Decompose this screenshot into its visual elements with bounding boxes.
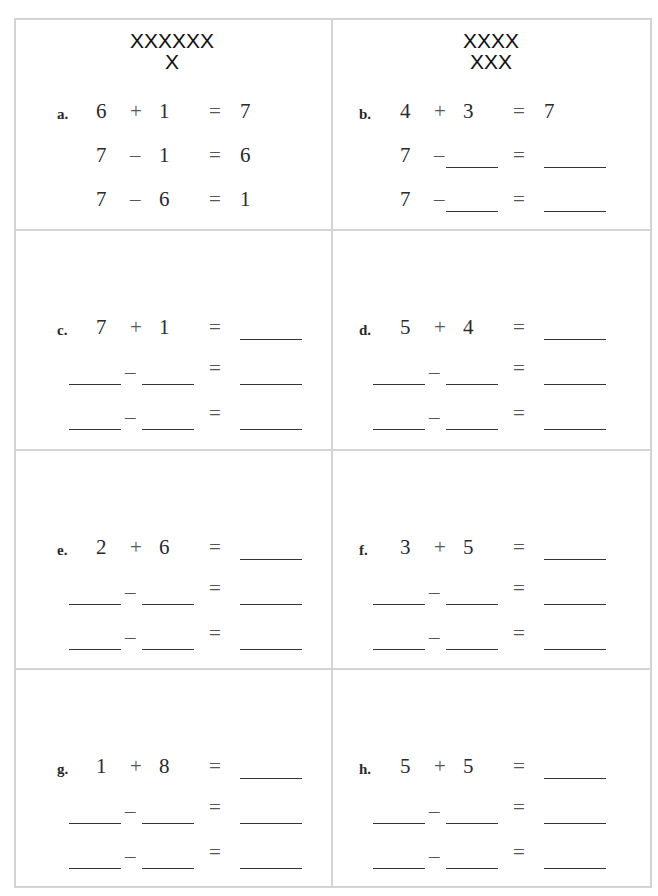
first-number: 7 [96,143,107,168]
equals-sign: = [209,187,221,212]
equals-sign: = [209,401,221,426]
second-number-blank[interactable] [446,384,498,385]
subtraction-sentence: –= [330,359,652,389]
model-drawing: XXXXXX [14,31,330,51]
result-blank[interactable] [544,211,606,212]
operator: + [434,99,446,124]
result-blank[interactable] [544,384,606,385]
result-blank[interactable] [544,167,606,168]
operator: + [434,535,446,560]
result-blank[interactable] [544,868,606,869]
second-number: 1 [159,315,170,340]
subtraction-sentence: –= [14,404,330,434]
second-number: 3 [463,99,474,124]
second-number-blank[interactable] [142,604,194,605]
first-number: 6 [96,99,107,124]
result-blank[interactable] [544,604,606,605]
operator: – [125,405,136,430]
problem-g: g.1+8=–=–= [14,668,330,888]
second-number: 1 [159,99,170,124]
second-number-blank[interactable] [142,649,194,650]
result-blank[interactable] [544,429,606,430]
first-number-blank[interactable] [69,868,121,869]
second-number-blank[interactable] [446,823,498,824]
first-number-blank[interactable] [373,604,425,605]
result-blank[interactable] [544,339,606,340]
problem-label: e. [57,542,67,559]
result-blank[interactable] [240,604,302,605]
second-number: 6 [159,187,170,212]
equals-sign: = [513,576,525,601]
second-number-blank[interactable] [446,167,498,168]
operator: + [130,315,142,340]
second-number-blank[interactable] [446,868,498,869]
operator: – [130,143,141,168]
result-blank[interactable] [544,778,606,779]
first-number-blank[interactable] [373,823,425,824]
equals-sign: = [209,99,221,124]
first-number-blank[interactable] [69,384,121,385]
equals-sign: = [513,187,525,212]
first-number-blank[interactable] [69,604,121,605]
first-number: 7 [400,187,411,212]
second-number-blank[interactable] [446,429,498,430]
addition-sentence: h.5+5= [330,753,652,783]
subtraction-sentence: –= [14,843,330,873]
problem-label: d. [359,322,371,339]
equals-sign: = [209,535,221,560]
second-number: 4 [463,315,474,340]
result: 1 [240,187,251,212]
equals-sign: = [513,535,525,560]
first-number-blank[interactable] [69,823,121,824]
problem-label: g. [57,761,68,778]
second-number-blank[interactable] [142,384,194,385]
subtraction-sentence: –= [14,624,330,654]
result-blank[interactable] [240,559,302,560]
operator: + [130,754,142,779]
second-number-blank[interactable] [446,604,498,605]
first-number: 1 [96,754,107,779]
first-number-blank[interactable] [69,429,121,430]
first-number-blank[interactable] [373,384,425,385]
first-number-blank[interactable] [373,649,425,650]
result-blank[interactable] [240,384,302,385]
subtraction-sentence: 7–= [330,142,652,172]
problem-d: d.5+4=–=–= [330,229,652,449]
result-blank[interactable] [544,823,606,824]
result-blank[interactable] [544,649,606,650]
problem-label: c. [57,322,67,339]
operator: – [429,799,440,824]
result-blank[interactable] [240,823,302,824]
first-number: 7 [400,143,411,168]
second-number-blank[interactable] [142,429,194,430]
subtraction-sentence: –= [330,843,652,873]
result-blank[interactable] [240,649,302,650]
second-number-blank[interactable] [446,649,498,650]
first-number-blank[interactable] [69,649,121,650]
result-blank[interactable] [240,868,302,869]
equals-sign: = [513,840,525,865]
first-number: 7 [96,315,107,340]
operator: + [130,99,142,124]
first-number-blank[interactable] [373,868,425,869]
result-blank[interactable] [240,339,302,340]
second-number-blank[interactable] [142,823,194,824]
operator: – [434,187,445,212]
second-number-blank[interactable] [142,868,194,869]
result-blank[interactable] [544,559,606,560]
result: 6 [240,143,251,168]
equals-sign: = [209,840,221,865]
model-drawing: XXX [330,52,652,72]
equals-sign: = [209,143,221,168]
result-blank[interactable] [240,429,302,430]
equals-sign: = [513,401,525,426]
problem-a: XXXXXXXa.6+1=77–1=67–6=1 [14,18,330,229]
result-blank[interactable] [240,778,302,779]
first-number: 4 [400,99,411,124]
operator: – [125,799,136,824]
equals-sign: = [513,356,525,381]
first-number: 2 [96,535,107,560]
problem-c: c.7+1=–=–= [14,229,330,449]
second-number-blank[interactable] [446,211,498,212]
first-number-blank[interactable] [373,429,425,430]
